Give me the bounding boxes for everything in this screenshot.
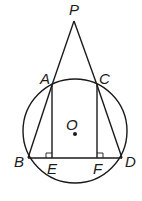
segment-ab (28, 85, 52, 158)
geometry-diagram: P A C O B E F D (0, 0, 142, 201)
label-a: A (39, 70, 50, 87)
segment-cd (97, 85, 122, 158)
label-b: B (14, 153, 24, 170)
segment-pc (74, 21, 97, 85)
right-angle-mark-f (97, 153, 103, 158)
label-p: P (69, 1, 79, 18)
label-e: E (47, 160, 58, 177)
label-f: F (93, 160, 103, 177)
right-angle-mark-e (46, 153, 52, 158)
label-o: O (66, 116, 78, 133)
label-c: C (99, 70, 110, 87)
segment-pa (52, 21, 74, 85)
label-d: D (125, 153, 136, 170)
